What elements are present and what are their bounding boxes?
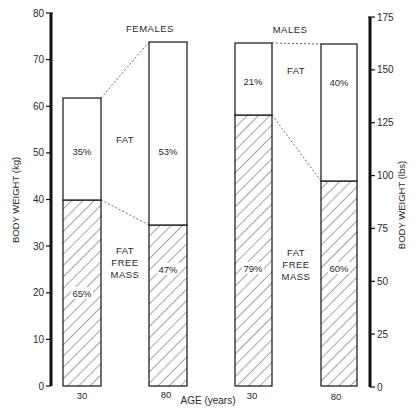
pct-f80-fat: 53% [158,146,178,157]
annot-fat-male: FAT [287,65,305,76]
left-tick-0: 0 [38,381,44,392]
annot-ffm-male-3: MASS [282,271,311,282]
left-tick-20: 20 [33,287,45,298]
annot-ffm-male-2: FREE [282,259,309,270]
body-composition-chart: 0 10 20 30 40 50 60 70 80 BODY WEIGHT (k… [0,0,419,414]
x-tick-male-80: 80 [331,391,342,402]
right-axis-label: BODY WEIGHT (lbs) [396,161,407,249]
right-tick-75: 75 [377,223,389,234]
males-title: MALES [273,24,308,35]
left-tick-30: 30 [33,241,45,252]
pct-f30-ffm: 65% [72,288,92,299]
right-tick-100: 100 [377,170,394,181]
x-axis-label: AGE (years) [180,395,235,406]
annot-ffm-female-2: FREE [111,257,138,268]
annot-ffm-male-1: FAT [287,247,305,258]
left-tick-10: 10 [33,334,45,345]
pct-m30-ffm: 79% [243,263,263,274]
bar-male-30 [235,43,272,386]
bar-male-80 [321,44,357,386]
females-title: FEMALES [126,23,174,34]
right-tick-175: 175 [377,12,394,23]
annot-ffm-female-3: MASS [111,269,140,280]
left-tick-80: 80 [33,8,45,19]
bar-female-80 [149,42,187,386]
x-tick-male-30: 30 [247,390,258,401]
right-tick-25: 25 [377,329,389,340]
pct-m80-fat: 40% [329,77,349,88]
pct-m80-ffm: 60% [329,263,349,274]
annot-fat-female: FAT [116,134,134,145]
left-tick-40: 40 [33,194,45,205]
right-y-axis: 0 25 50 75 100 125 150 175 BODY WEIGHT (… [368,12,407,393]
right-tick-0: 0 [377,382,383,393]
left-tick-60: 60 [33,101,45,112]
left-tick-50: 50 [33,147,45,158]
bar-female-30 [63,98,101,386]
x-tick-female-80: 80 [161,389,172,400]
left-y-axis: 0 10 20 30 40 50 60 70 80 BODY WEIGHT (k… [10,8,53,392]
annot-ffm-female-1: FAT [116,245,134,256]
pct-f80-ffm: 47% [158,264,178,275]
left-tick-70: 70 [33,54,45,65]
right-tick-150: 150 [377,64,394,75]
left-axis-label: BODY WEIGHT (kg) [10,157,21,243]
pct-m30-fat: 21% [243,76,263,87]
x-tick-female-30: 30 [77,390,88,401]
pct-f30-fat: 35% [72,146,92,157]
right-tick-50: 50 [377,276,389,287]
right-tick-125: 125 [377,117,394,128]
